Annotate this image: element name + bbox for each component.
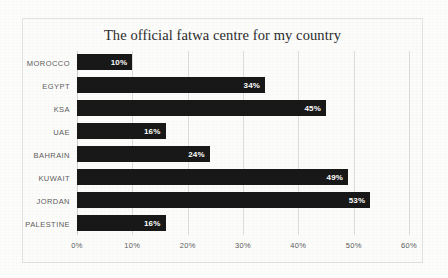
bar-value-label: 45% (304, 104, 321, 113)
category-label: MOROCCO (27, 58, 70, 67)
bar: 16% (77, 215, 166, 231)
category-label: KUWAIT (38, 173, 70, 182)
bar: 53% (77, 192, 370, 208)
gridline-60 (409, 51, 410, 235)
x-tick-label: 10% (124, 241, 140, 250)
bar-row: EGYPT34% (77, 74, 409, 97)
bar-value-label: 10% (111, 58, 128, 67)
x-axis-tick-labels: 0%10%20%30%40%50%60% (77, 241, 409, 257)
plot-area: MOROCCO10%EGYPT34%KSA45%UAE16%BAHRAIN24%… (77, 51, 409, 235)
x-tick-label: 20% (180, 241, 196, 250)
bar-value-label: 34% (244, 81, 261, 90)
x-tick-label: 40% (290, 241, 306, 250)
category-label: JORDAN (36, 196, 70, 205)
bar-row: BAHRAIN24% (77, 143, 409, 166)
bar: 34% (77, 77, 265, 93)
category-label: EGYPT (42, 81, 70, 90)
bar-value-label: 49% (327, 173, 344, 182)
chart-plot-frame: The official fatwa centre for my country… (22, 18, 423, 263)
bar-value-label: 16% (144, 127, 161, 136)
x-tick-label: 50% (346, 241, 362, 250)
bar: 16% (77, 123, 166, 139)
bar-row: UAE16% (77, 120, 409, 143)
bar: 24% (77, 146, 210, 162)
bar: 10% (77, 54, 132, 70)
bars-layer: MOROCCO10%EGYPT34%KSA45%UAE16%BAHRAIN24%… (77, 51, 409, 235)
bar: 45% (77, 100, 326, 116)
bar-value-label: 24% (188, 150, 205, 159)
category-label: UAE (53, 127, 70, 136)
bar: 49% (77, 169, 348, 185)
bar-row: KUWAIT49% (77, 166, 409, 189)
bar-row: JORDAN53% (77, 189, 409, 212)
category-label: BAHRAIN (34, 150, 71, 159)
bar-row: PALESTINE16% (77, 212, 409, 235)
bar-chart-figure: The official fatwa centre for my country… (0, 0, 448, 278)
bar-value-label: 53% (349, 196, 366, 205)
bar-value-label: 16% (144, 219, 161, 228)
bar-row: MOROCCO10% (77, 51, 409, 74)
bar-row: KSA45% (77, 97, 409, 120)
x-tick-label: 30% (235, 241, 251, 250)
x-tick-label: 0% (71, 241, 82, 250)
x-tick-label: 60% (401, 241, 417, 250)
category-label: PALESTINE (25, 219, 70, 228)
category-label: KSA (54, 104, 70, 113)
chart-title: The official fatwa centre for my country (23, 27, 422, 44)
